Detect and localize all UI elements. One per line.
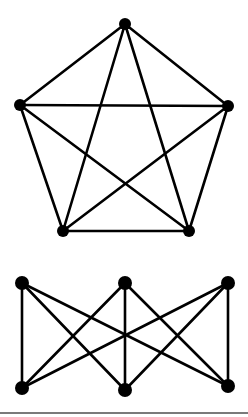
vertex-v3	[221, 379, 235, 393]
edge-a-d	[63, 24, 125, 231]
graph-diagram-canvas	[0, 0, 248, 417]
vertex-u2	[118, 276, 132, 290]
edge-a-b	[20, 24, 125, 105]
edge-b-c	[20, 105, 228, 106]
k5-complete-graph	[14, 18, 234, 237]
edge-c-d	[63, 106, 228, 231]
k33-edges	[22, 283, 228, 390]
edge-b-d	[20, 105, 63, 231]
vertex-d	[57, 225, 69, 237]
k5-edges	[20, 24, 228, 231]
vertex-u3	[221, 276, 235, 290]
edge-a-e	[125, 24, 189, 231]
edge-b-e	[20, 105, 189, 231]
vertex-v2	[118, 383, 132, 397]
bottom-border-line	[0, 412, 248, 414]
edge-c-e	[189, 106, 228, 231]
vertex-v1	[15, 381, 29, 395]
vertex-u1	[15, 276, 29, 290]
vertex-e	[183, 225, 195, 237]
vertex-a	[119, 18, 131, 30]
edge-a-c	[125, 24, 228, 106]
vertex-b	[14, 99, 26, 111]
vertex-c	[222, 100, 234, 112]
k33-bipartite-graph	[15, 276, 235, 397]
